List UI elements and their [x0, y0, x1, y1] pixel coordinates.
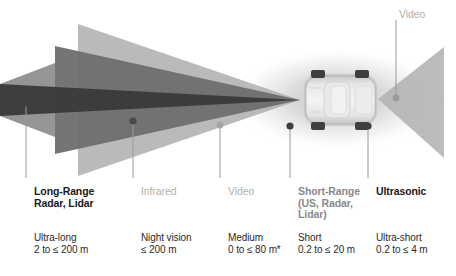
leader-dot-video	[217, 122, 224, 129]
car-wheel	[355, 70, 369, 78]
range-long-range: Ultra-long 2 to ≤ 200 m	[34, 232, 88, 256]
range-video: Medium 0 to ≤ 80 m*	[228, 232, 281, 256]
car-roof	[331, 86, 346, 114]
sensor-name-infrared: Infrared	[141, 186, 176, 198]
range-short-range: Short 0.2 to ≤ 20 m	[298, 232, 355, 256]
label-rear-video: Video	[399, 8, 425, 20]
sensor-coverage-diagram: Video Long-Range Radar, Lidar Infrared V…	[0, 0, 456, 276]
sensor-name-ultrasonic: Ultrasonic	[376, 186, 426, 198]
range-label: Night vision	[141, 232, 192, 244]
range-ultrasonic: Ultra-short 0.2 to ≤ 4 m	[376, 232, 428, 256]
leader-dot-long-range	[22, 99, 29, 106]
range-value: 0.2 to ≤ 4 m	[376, 244, 428, 256]
sensor-name-short-range: Short-Range (US, Radar, Lidar)	[298, 186, 360, 221]
sensor-name-line: Ultrasonic	[376, 186, 426, 198]
leader-dot-rear-video	[393, 95, 400, 102]
sensor-name-video: Video	[228, 186, 254, 198]
sensor-name-long-range: Long-Range Radar, Lidar	[34, 186, 94, 209]
car-wheel	[311, 70, 325, 78]
sensor-name-line: Radar, Lidar	[34, 198, 94, 210]
range-value: ≤ 200 m	[141, 244, 192, 256]
leader-dot-ultrasonic	[364, 122, 371, 129]
sensor-name-line: Video	[228, 186, 254, 198]
range-value: 0.2 to ≤ 20 m	[298, 244, 355, 256]
range-infrared: Night vision ≤ 200 m	[141, 232, 192, 256]
range-label: Medium	[228, 232, 281, 244]
sensor-name-line: Long-Range	[34, 186, 94, 198]
leader-dot-short-range	[286, 122, 293, 129]
sensor-name-line: Infrared	[141, 186, 176, 198]
sensor-name-line: Short-Range	[298, 186, 360, 198]
range-value: 0 to ≤ 80 m*	[228, 244, 281, 256]
range-label: Short	[298, 232, 355, 244]
range-value: 2 to ≤ 200 m	[34, 244, 88, 256]
range-label: Ultra-long	[34, 232, 88, 244]
sensor-name-line: Lidar)	[298, 209, 360, 221]
vehicle-illustration	[304, 70, 377, 130]
car-rear-deck	[355, 86, 372, 114]
range-label: Ultra-short	[376, 232, 428, 244]
leader-dot-infrared	[129, 117, 136, 124]
car-wheel	[311, 122, 325, 130]
